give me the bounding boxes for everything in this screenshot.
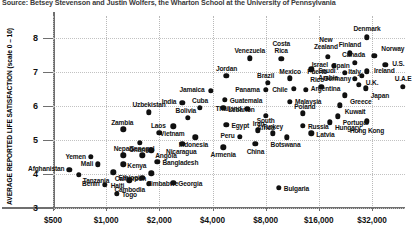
data-point[interactable] [121,153,126,158]
data-point-label: Nepal [114,145,131,152]
data-point[interactable] [95,162,100,167]
data-point[interactable] [309,130,314,135]
data-point[interactable] [247,56,252,61]
data-point-label: Thailand [215,105,241,112]
data-point[interactable] [121,126,126,131]
data-point-label: Turkey [263,123,283,130]
y-tick-mark [43,38,53,39]
y-tick-mark [43,72,53,73]
data-point-label: Costa Rica [266,40,296,54]
data-point-label: Jordan [216,65,237,72]
x-tick-label: $8,000 [253,216,278,225]
data-point[interactable] [352,76,357,81]
data-point[interactable] [335,113,340,118]
x-tick-mark [372,207,373,211]
data-point[interactable] [287,75,292,80]
data-point[interactable] [255,128,260,133]
data-point-label: Egypt [231,122,249,129]
data-point-label: Togo [122,191,137,198]
data-point[interactable] [237,134,242,139]
data-point[interactable] [279,56,284,61]
data-point-label: Kuwait [345,108,366,115]
y-tick-mark [43,106,53,107]
data-point-label: Jamaica [180,86,205,93]
x-tick-label: $1,000 [94,216,119,225]
data-point-label: Botswana [271,141,301,148]
source-note: Source: Betsey Stevenson and Justin Wolf… [2,0,403,7]
data-point[interactable] [276,185,281,190]
data-point[interactable] [303,87,308,92]
data-point-label: Armenia [211,151,236,158]
data-point-label: Latvia [316,131,334,138]
x-tick-label: $500 [44,216,62,225]
data-point[interactable] [265,80,270,85]
data-point[interactable] [222,97,227,102]
data-point[interactable] [121,162,126,167]
data-point[interactable] [114,191,119,196]
data-point[interactable] [287,99,292,104]
data-point[interactable] [76,172,81,177]
data-point-label: Norway [381,45,404,52]
data-point-label: Senegal [130,145,154,152]
x-tick-label: $4,000 [200,216,225,225]
data-point[interactable] [253,141,258,146]
data-point[interactable] [400,84,405,89]
data-point[interactable] [140,153,145,158]
data-point[interactable] [197,105,202,110]
data-point-label: Brazil [257,72,274,79]
data-point-label: Chile [272,86,287,93]
data-point-label: Uzbekistan [132,101,165,108]
data-point[interactable] [291,86,296,91]
x-tick-label: $32,000 [357,216,387,225]
data-point-label: Afghanistan [28,165,64,172]
data-point[interactable] [221,145,226,150]
data-point[interactable] [146,109,151,114]
data-point[interactable] [352,60,357,65]
x-tick-mark [53,207,54,211]
x-gridline [372,16,374,208]
data-point-label: Kenya [127,162,146,169]
data-point[interactable] [180,100,185,105]
data-point[interactable] [67,167,72,172]
data-point[interactable] [325,54,330,59]
x-tick-mark [319,207,320,211]
data-point[interactable] [356,82,361,87]
y-tick-label: 3 [26,203,38,213]
data-point-label: Benin [82,180,100,187]
y-tick-mark [43,174,53,175]
x-tick-mark [106,207,107,211]
data-point[interactable] [300,111,305,116]
y-tick-label: 5 [26,135,38,145]
data-point[interactable] [270,130,275,135]
data-point-label: Laos [151,122,166,129]
data-point-label: Georgia [178,180,202,187]
data-point[interactable] [224,122,229,127]
data-point[interactable] [171,124,176,129]
data-point[interactable] [372,53,377,58]
data-point-label: Bangladesh [162,159,198,166]
data-point-label: China [247,148,265,155]
plot-area: 345678$500$1,000$2,000$4,000$8,000$16,00… [38,16,405,208]
data-point[interactable] [185,115,190,120]
x-gridline [53,16,55,208]
data-point[interactable] [224,73,229,78]
data-point-label: Italy [348,68,360,75]
data-point-label: Yemen [65,153,86,160]
data-point-label: Japan [371,92,389,99]
data-point-label: Hungary [335,124,361,131]
data-point-label: U.A.E [395,75,412,82]
data-point-label: Denmark [353,25,380,32]
data-point[interactable] [342,92,347,97]
x-tick-label: $16,000 [304,216,334,225]
data-point[interactable] [88,154,93,159]
data-point[interactable] [300,123,305,128]
x-tick-mark [266,207,267,211]
data-point-label: Argentina [311,85,340,92]
data-point-label: Canada [342,51,365,58]
data-point-label: Peru [221,132,235,139]
data-point-label: Mexico [279,68,300,75]
data-point-label: Bulgaria [284,185,309,192]
data-point[interactable] [363,86,368,91]
x-gridline [213,16,215,208]
y-axis-label: AVERAGE REPORTED LIFE SATISFACTION (scal… [6,22,13,212]
